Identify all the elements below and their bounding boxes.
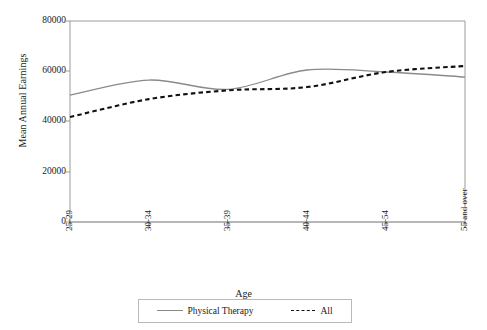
x-tick-label: 40-44 (302, 210, 311, 231)
x-tick-label: 55 and over (460, 189, 469, 232)
legend-label: All (320, 306, 332, 316)
x-tick-marks (70, 222, 465, 228)
x-tick-label: 35-39 (223, 210, 232, 231)
chart-legend: Physical Therapy All (138, 299, 352, 323)
x-tick-label: 45-54 (381, 210, 390, 231)
legend-label: Physical Therapy (187, 306, 253, 316)
legend-dotted-line-icon (290, 307, 316, 315)
y-tick-marks (64, 21, 70, 222)
x-tick-label: 30-34 (144, 210, 153, 231)
legend-item-all: All (290, 306, 332, 316)
chart-figure: Mean Annual Earnings 80000 60000 40000 2… (0, 0, 487, 330)
plot-area (0, 0, 487, 330)
x-tick-label: 25-29 (65, 210, 74, 231)
legend-solid-line-icon (157, 307, 183, 315)
x-axis-title: Age (0, 288, 487, 299)
legend-item-physical-therapy: Physical Therapy (157, 306, 253, 316)
series-line-physical-therapy (70, 69, 465, 95)
